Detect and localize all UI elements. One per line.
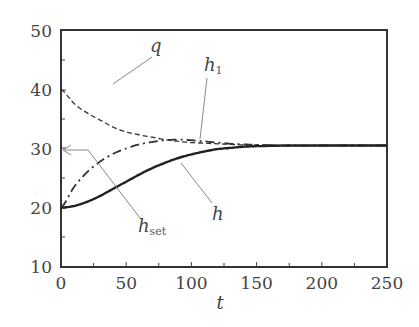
x-tick-0: 0 <box>56 273 67 293</box>
h-leader <box>181 163 212 203</box>
x-axis-title: t <box>216 292 224 313</box>
h1-label: h1 <box>204 54 223 77</box>
series-lines <box>61 89 387 208</box>
y-tick-20: 20 <box>30 198 52 218</box>
hset-label: hset <box>138 215 167 238</box>
series-h1-line <box>61 140 387 208</box>
y-tick-40: 40 <box>30 80 52 100</box>
q-leader <box>113 57 152 84</box>
x-tick-150: 150 <box>240 273 272 293</box>
y-tick-labels: 10 20 30 40 50 <box>30 21 52 277</box>
x-tick-250: 250 <box>371 273 403 293</box>
x-tick-100: 100 <box>175 273 207 293</box>
x-tick-labels: 0 50 100 150 200 250 <box>56 273 404 293</box>
x-tick-200: 200 <box>306 273 338 293</box>
series-h-line <box>61 146 387 208</box>
h-label: h <box>212 203 224 224</box>
y-tick-50: 50 <box>30 21 52 41</box>
y-tick-30: 30 <box>30 139 52 159</box>
series-q-line <box>61 89 387 145</box>
q-label: q <box>150 35 162 56</box>
leader-lines <box>63 57 212 218</box>
h1-leader <box>200 78 207 139</box>
x-tick-50: 50 <box>115 273 137 293</box>
chart: 10 20 30 40 50 0 50 100 150 200 250 t q … <box>0 0 419 327</box>
y-tick-10: 10 <box>30 257 52 277</box>
